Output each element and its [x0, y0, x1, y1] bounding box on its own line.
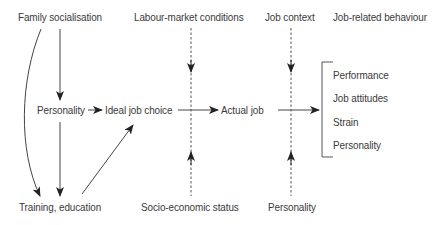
- arrow-training-to-ideal: [82, 125, 133, 194]
- label-job-context: Job context: [265, 10, 315, 24]
- label-ideal-job-choice: Ideal job choice: [105, 103, 172, 117]
- label-labour-market-conditions: Labour-market conditions: [134, 10, 244, 24]
- outcome-performance: Performance: [333, 68, 389, 82]
- label-family-socialisation: Family socialisation: [18, 10, 102, 24]
- label-actual-job: Actual job: [221, 103, 264, 117]
- label-personality: Personality: [37, 103, 85, 117]
- outcome-job-attitudes: Job attitudes: [333, 91, 388, 105]
- outcome-personality: Personality: [333, 138, 381, 152]
- outcome-strain: Strain: [333, 115, 358, 129]
- label-training-education: Training, education: [19, 200, 101, 214]
- outcomes-bracket: [322, 62, 333, 157]
- label-job-related-behaviour: Job-related behaviour: [333, 10, 427, 24]
- label-socio-economic-status: Socio-economic status: [141, 200, 239, 214]
- label-personality-bottom: Personality: [268, 200, 316, 214]
